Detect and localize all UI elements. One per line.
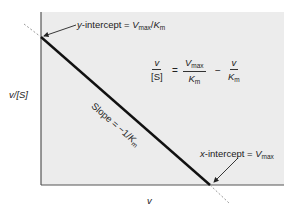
term1-num-sub: max [191,62,203,69]
x-axis-label-text: v [147,195,152,206]
equation-lhs-denominator: [S] [151,70,163,82]
x-intercept-label: x-intercept = Vmax [200,149,274,161]
equation-minus: − [215,66,221,76]
term1-den-sub: m [195,78,200,85]
dashed-extension-bottom [210,185,229,203]
y-intercept-sub2: m [160,24,165,31]
term2-numerator: v [230,58,239,70]
equation-lhs-numerator: v [152,58,161,70]
dashed-extension-top [24,24,41,37]
x-intercept-text: -intercept = [205,148,255,159]
y-axis-label-text: v/[S] [9,89,28,100]
y-intercept-label: y-intercept = Vmax/Km [77,20,165,32]
eadie-hofstee-diagram: y-intercept = Vmax/Km v [S] = Vmax Km − … [0,0,293,214]
x-intercept-sub: max [262,153,274,160]
term2-den-sub: m [234,76,239,83]
equation-term2: v Km [228,58,240,83]
x-axis-label: v [147,196,152,206]
y-intercept-text: -intercept = [82,19,132,30]
equation-equals: = [172,66,178,76]
y-intercept-sub1: max [139,24,151,31]
equation-lhs: v [S] [151,58,163,81]
plot-graphics [0,0,293,214]
equation-term1: Vmax Km [183,58,206,85]
y-axis-label: v/[S] [9,90,28,100]
